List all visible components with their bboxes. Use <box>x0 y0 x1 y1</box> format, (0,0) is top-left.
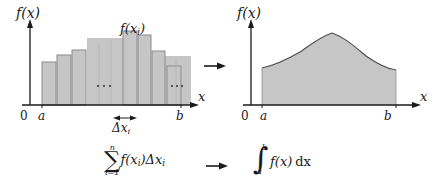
delta-x-label-sub: i <box>127 126 130 136</box>
right-y-axis-label: f(x) <box>237 6 261 20</box>
bar-7 <box>167 66 181 105</box>
bar-2 <box>57 55 71 105</box>
summation-body-sub2: i <box>162 158 165 168</box>
left-origin-label: 0 <box>20 110 28 122</box>
left-panel-bars <box>42 31 191 105</box>
delta-x-label-main: Δx <box>112 121 127 135</box>
summation-lower-index: i=1 <box>104 169 120 177</box>
delta-x-label: Δxi <box>112 122 130 135</box>
integral-area-fill <box>262 33 396 105</box>
right-upper-limit-label: b <box>384 110 392 122</box>
right-origin-label: 0 <box>241 110 249 122</box>
delta-arrow-right-head <box>130 116 137 121</box>
left-upper-limit-label: b <box>176 110 184 122</box>
left-x-axis-label: x <box>198 90 205 103</box>
delta-arrow-left-head <box>113 116 120 121</box>
fxi-label-f: f(x <box>120 21 137 36</box>
left-y-axis-label: f(x) <box>16 6 40 20</box>
bottom-transition-arrow <box>206 163 228 170</box>
top-transition-arrow <box>204 63 226 70</box>
definite-integral-formula: ∫baf(x)dx <box>253 146 311 176</box>
summation-body: f(xi)Δxi <box>120 153 165 168</box>
summation-operator-group: n∑i=1 <box>104 144 120 177</box>
integral-differential: dx <box>295 154 311 169</box>
riemann-integral-figure <box>0 0 439 191</box>
bar-1 <box>42 62 56 105</box>
right-x-axis-label: x <box>420 90 427 103</box>
integral-upper-limit: b <box>262 144 267 152</box>
fxi-label-close: ) <box>140 21 145 36</box>
riemann-sum-formula: n∑i=1f(xi)Δxi <box>104 144 165 177</box>
fxi-height-label: f(xi) <box>120 22 145 37</box>
summation-body-close: )Δx <box>140 152 162 167</box>
integral-body: f(x)dx <box>270 155 311 168</box>
right-lower-limit-label: a <box>260 110 267 122</box>
ellipsis-dots-right <box>171 85 183 87</box>
summation-body-f: f(x <box>120 152 137 167</box>
integral-operator-group: ∫ba <box>253 146 267 176</box>
bar-3 <box>72 50 86 105</box>
integral-lower-limit: a <box>257 168 262 176</box>
integral-body-fx: f(x) <box>270 154 292 169</box>
bar-5 <box>138 35 151 105</box>
bar-4 <box>123 31 137 105</box>
bar-6 <box>152 51 165 105</box>
left-lower-limit-label: a <box>38 110 45 122</box>
bar-merged-left <box>87 38 123 105</box>
